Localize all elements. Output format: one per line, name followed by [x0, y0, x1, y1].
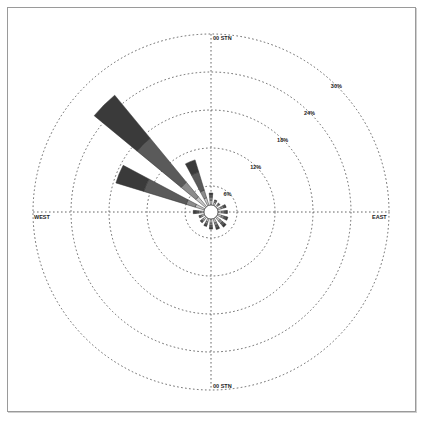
petal-segment — [209, 226, 212, 228]
petal-segment — [210, 223, 213, 226]
petal-segment — [218, 211, 222, 213]
petal-segment — [209, 195, 212, 198]
petal-segment — [226, 210, 227, 213]
petal-segment — [191, 172, 204, 192]
north-label: 00 STN — [213, 35, 232, 41]
wind-rose-chart: 6%12%18%24%30%00 STN00 STNWESTEAST — [0, 0, 430, 423]
south-label: 00 STN — [213, 383, 232, 389]
petal-segment — [94, 95, 150, 151]
petal-segment — [185, 160, 198, 175]
ring-label: 12% — [250, 164, 261, 170]
petal-segment — [210, 200, 212, 205]
petal-segment — [222, 211, 225, 214]
petal-segment — [209, 193, 213, 195]
petal-segment — [201, 211, 204, 213]
ring-label: 30% — [331, 83, 342, 89]
petal-segment — [193, 210, 196, 213]
petal — [209, 219, 212, 229]
petal-segment — [224, 211, 226, 214]
petal — [209, 193, 213, 205]
petal-segment — [210, 219, 212, 223]
petal-segment — [210, 197, 213, 200]
petal-segment — [116, 165, 149, 191]
center-hole — [204, 205, 218, 219]
petal-segment — [209, 228, 212, 229]
petal-segment — [196, 211, 199, 214]
ring-label: 24% — [304, 110, 315, 116]
petal — [213, 200, 217, 206]
petal-segment — [198, 211, 201, 213]
petal — [199, 214, 205, 218]
west-label: WEST — [34, 214, 51, 220]
ring-label: 6% — [223, 191, 231, 197]
east-label: EAST — [372, 214, 387, 220]
petal — [218, 210, 228, 213]
petal — [193, 210, 204, 213]
ring-label: 18% — [277, 137, 288, 143]
